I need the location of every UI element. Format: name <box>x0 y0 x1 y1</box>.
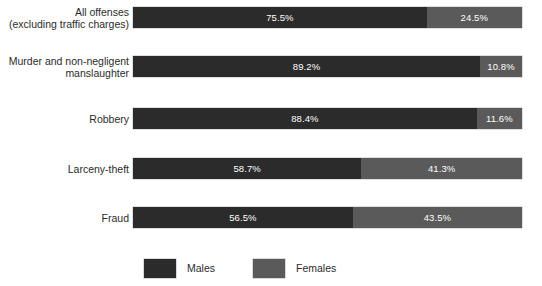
category-label: Larceny-theft <box>0 162 129 175</box>
bar-track: 56.5% 43.5% <box>133 207 522 228</box>
chart-row: All offenses (excluding traffic charges)… <box>0 7 542 28</box>
chart-row: Larceny-theft 58.7% 41.3% <box>0 158 542 179</box>
bar-segment-males[interactable]: 89.2% <box>133 56 480 77</box>
bar-segment-females[interactable]: 43.5% <box>353 207 522 228</box>
bar-track: 75.5% 24.5% <box>133 7 522 28</box>
category-label: Murder and non-negligent manslaughter <box>0 54 129 79</box>
bar-segment-females[interactable]: 11.6% <box>477 108 522 129</box>
bar-value-label: 88.4% <box>291 113 318 124</box>
bar-value-label: 11.6% <box>486 113 513 124</box>
bar-value-label: 56.5% <box>229 212 256 223</box>
chart-legend: Males Females <box>144 258 374 278</box>
bar-value-label: 41.3% <box>428 163 455 174</box>
bar-value-label: 10.8% <box>487 61 514 72</box>
legend-swatch-icon <box>253 259 285 278</box>
bar-track: 89.2% 10.8% <box>133 56 522 77</box>
bar-segment-males[interactable]: 75.5% <box>133 7 427 28</box>
bar-segment-females[interactable]: 10.8% <box>480 56 522 77</box>
category-label: All offenses (excluding traffic charges) <box>0 5 129 30</box>
bar-segment-males[interactable]: 88.4% <box>133 108 477 129</box>
bar-segment-females[interactable]: 24.5% <box>427 7 522 28</box>
bar-segment-males[interactable]: 58.7% <box>133 158 361 179</box>
chart-row: Fraud 56.5% 43.5% <box>0 207 542 228</box>
bar-track: 88.4% 11.6% <box>133 108 522 129</box>
legend-item-males[interactable]: Males <box>144 259 215 278</box>
bar-segment-females[interactable]: 41.3% <box>361 158 522 179</box>
bar-segment-males[interactable]: 56.5% <box>133 207 353 228</box>
category-label: Robbery <box>0 112 129 125</box>
bar-value-label: 89.2% <box>293 61 320 72</box>
legend-swatch-icon <box>144 259 176 278</box>
bar-value-label: 24.5% <box>461 12 488 23</box>
category-label: Fraud <box>0 211 129 224</box>
bar-track: 58.7% 41.3% <box>133 158 522 179</box>
legend-label: Males <box>187 262 215 274</box>
bar-value-label: 75.5% <box>266 12 293 23</box>
chart-row: Robbery 88.4% 11.6% <box>0 108 542 129</box>
stacked-bar-chart: All offenses (excluding traffic charges)… <box>0 0 542 286</box>
legend-item-females[interactable]: Females <box>253 259 336 278</box>
bar-value-label: 43.5% <box>424 212 451 223</box>
legend-label: Females <box>296 262 336 274</box>
chart-row: Murder and non-negligent manslaughter 89… <box>0 56 542 77</box>
bar-value-label: 58.7% <box>233 163 260 174</box>
